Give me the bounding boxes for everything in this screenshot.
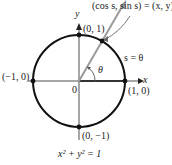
equation-label: x² + y² = 1 [57,148,101,159]
x-axis-label: x [142,74,148,85]
y-axis-arrow-icon [76,23,82,30]
point-right-label: (1, 0) [128,85,150,97]
annotation-label: (cos s, sin s) = (x, y) [92,0,172,12]
point-bottom-label: (0, −1) [82,130,109,142]
arc-label: s = θ [124,52,144,63]
origin-label: 0 [72,84,77,95]
point-right [123,79,128,84]
point-bottom [77,125,82,130]
point-left [31,79,36,84]
y-axis-label: y [74,8,80,19]
point-top [77,33,82,38]
angle-label: θ [98,64,103,75]
point-top-label: (0, 1) [83,23,105,35]
point-on-circle [100,39,105,44]
point-left-label: (−1, 0) [2,71,29,83]
angle-arc [87,67,95,81]
unit-circle-diagram: (cos s, sin s) = (x, y) y (0, 1) s = θ θ… [0,0,172,165]
